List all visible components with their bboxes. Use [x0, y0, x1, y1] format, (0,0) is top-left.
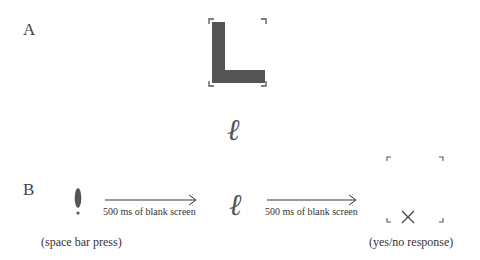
l-shape-stimulus	[212, 22, 265, 83]
arrow-1	[105, 195, 196, 205]
interval-2-label: 500 ms of blank screen	[265, 206, 358, 217]
exclamation-icon	[75, 188, 82, 215]
interval-1-label: 500 ms of blank screen	[103, 206, 196, 217]
arrow-2	[267, 195, 356, 205]
response-x-icon	[402, 211, 414, 223]
fixation-caption: (space bar press)	[41, 235, 122, 250]
middle-ell-stimulus: ℓ	[227, 112, 240, 147]
panel-b-ell-stimulus: ℓ	[229, 187, 242, 222]
panel-b-label: B	[23, 180, 34, 200]
corner-brackets-b	[387, 157, 443, 222]
response-caption: (yes/no response)	[369, 235, 453, 250]
